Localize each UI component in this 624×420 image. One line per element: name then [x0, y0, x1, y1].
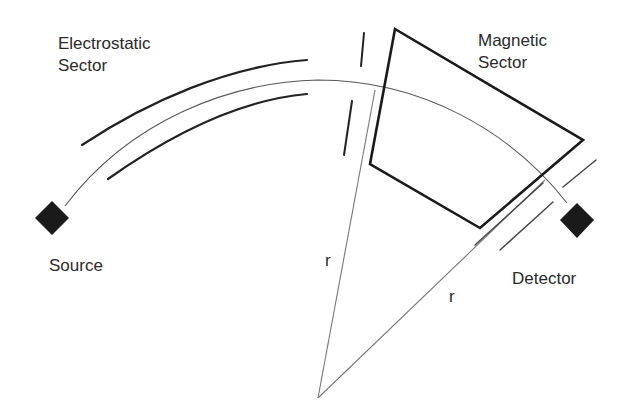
source-label: Source — [49, 256, 103, 275]
magnetic-sector-label-line2: Sector — [478, 53, 527, 72]
mass-spectrometer-diagram: Electrostatic Sector Magnetic Sector Sou… — [0, 0, 624, 420]
exit-slit-upper — [563, 160, 596, 187]
source-icon — [35, 201, 69, 235]
electrostatic-sector-label-line1: Electrostatic — [58, 34, 151, 53]
detector-icon — [560, 203, 594, 238]
exit-slit-lower — [500, 202, 553, 250]
magnetic-sector-label-line1: Magnetic — [478, 31, 547, 50]
ion-beam-path — [65, 80, 567, 206]
detector-label: Detector — [512, 269, 577, 288]
exit-slit-inner — [475, 183, 543, 245]
intermediate-slit-lower — [344, 101, 352, 155]
intermediate-slit-upper — [361, 33, 364, 66]
magnetic-sector — [370, 29, 583, 228]
radius-label-left: r — [325, 251, 331, 270]
electrostatic-sector-label-line2: Sector — [58, 56, 107, 75]
radius-label-right: r — [449, 287, 455, 306]
electrostatic-outer-plate — [82, 60, 307, 145]
